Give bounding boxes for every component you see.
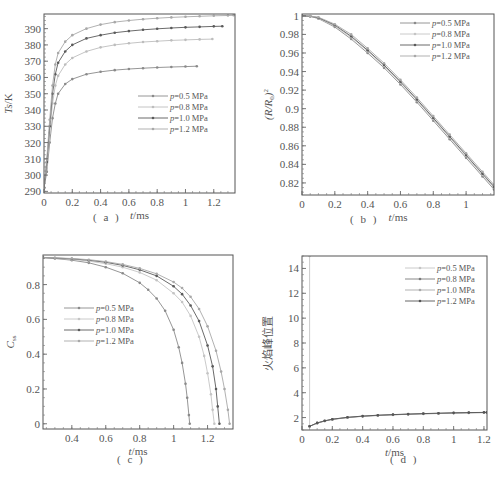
y-tick-label: 6 xyxy=(294,362,300,374)
data-marker xyxy=(113,44,116,47)
panel-label: ( c ) xyxy=(117,453,145,466)
data-marker xyxy=(215,349,218,352)
y-tick-label: 1 xyxy=(294,10,300,22)
data-marker xyxy=(407,413,410,416)
y-tick-label: 8 xyxy=(294,337,300,349)
data-marker xyxy=(184,382,187,385)
x-tick-label: 0.2 xyxy=(325,433,339,445)
data-marker xyxy=(331,418,334,421)
x-tick-label: 1.2 xyxy=(477,433,491,445)
data-marker xyxy=(483,411,486,414)
legend-marker xyxy=(419,278,422,281)
data-marker xyxy=(113,21,116,24)
data-marker xyxy=(104,266,107,269)
legend-entry: p=0.8 MPa xyxy=(95,314,134,324)
data-marker xyxy=(155,279,158,282)
y-tick-label: 4 xyxy=(294,387,300,399)
panel-label: ( d ) xyxy=(390,453,418,466)
data-marker xyxy=(392,413,395,416)
data-marker xyxy=(155,297,158,300)
x-axis-label: t/ms xyxy=(130,209,149,221)
x-tick-label: 0 xyxy=(299,198,305,210)
legend-marker xyxy=(78,329,81,332)
data-marker xyxy=(213,422,216,425)
data-marker xyxy=(170,16,173,19)
x-tick-label: 1 xyxy=(171,432,177,444)
y-tick-label: 0.2 xyxy=(26,383,40,395)
legend-entry: p=0.5 MPa xyxy=(436,263,475,273)
data-marker xyxy=(64,63,67,66)
data-marker xyxy=(211,38,214,41)
data-marker xyxy=(227,409,230,412)
panel-label: ( b ) xyxy=(350,213,378,226)
data-marker xyxy=(309,15,312,18)
legend-marker xyxy=(419,289,422,292)
data-marker xyxy=(142,41,145,44)
data-marker xyxy=(121,272,124,275)
y-tick-label: 390 xyxy=(25,23,42,35)
y-axis-label: Css xyxy=(4,335,18,348)
legend: p=0.5 MPap=0.8 MPap=1.0 MPap=1.2 MPa xyxy=(138,91,208,134)
legend-entry: p=1.0 MPa xyxy=(431,40,470,50)
data-marker xyxy=(223,388,226,391)
legend-marker xyxy=(78,318,81,321)
data-marker xyxy=(181,287,184,290)
legend-entry: p=1.0 MPa xyxy=(436,285,475,295)
legend-entry: p=0.5 MPa xyxy=(95,303,134,313)
data-marker xyxy=(416,96,419,99)
data-marker xyxy=(218,422,221,425)
data-marker xyxy=(170,66,173,69)
data-marker xyxy=(71,44,74,47)
legend-entry: p=1.2 MPa xyxy=(431,51,470,61)
x-tick-label: 0.8 xyxy=(426,198,440,210)
y-tick-label: 12 xyxy=(288,287,299,299)
data-marker xyxy=(184,39,187,42)
legend-marker xyxy=(78,340,81,343)
legend-entry: p=1.2 MPa xyxy=(95,336,134,346)
data-marker xyxy=(334,23,337,26)
y-tick-label: 10 xyxy=(288,312,300,324)
data-marker xyxy=(189,304,192,307)
x-tick-label: 0.6 xyxy=(99,432,113,444)
data-marker xyxy=(184,26,187,29)
data-marker xyxy=(172,281,175,284)
data-marker xyxy=(128,42,131,45)
y-tick-label: 380 xyxy=(25,39,42,51)
y-tick-label: 0.86 xyxy=(280,140,300,152)
data-marker xyxy=(164,309,167,312)
data-marker xyxy=(317,16,320,19)
legend-entry: p=0.8 MPa xyxy=(431,29,470,39)
data-marker xyxy=(228,422,231,425)
data-marker xyxy=(198,15,201,18)
y-tick-label: 0.9 xyxy=(285,103,299,115)
data-marker xyxy=(170,39,173,42)
legend-entry: p=1.0 MPa xyxy=(169,113,208,123)
y-tick-label: 350 xyxy=(25,88,42,100)
data-marker xyxy=(156,40,159,43)
data-marker xyxy=(221,25,224,28)
data-marker xyxy=(189,295,192,298)
legend-marker xyxy=(78,307,81,310)
x-tick-label: 0 xyxy=(299,433,305,445)
data-marker xyxy=(181,301,184,304)
data-marker xyxy=(211,409,214,412)
data-marker xyxy=(198,38,201,41)
y-tick-label: 370 xyxy=(25,55,42,67)
data-marker xyxy=(142,18,145,21)
data-marker xyxy=(71,57,74,60)
data-marker xyxy=(172,329,175,332)
x-tick-label: 0.4 xyxy=(361,198,375,210)
data-marker xyxy=(142,28,145,31)
data-marker xyxy=(308,425,311,428)
y-tick-label: 290 xyxy=(25,185,42,197)
data-marker xyxy=(104,260,107,263)
data-marker xyxy=(181,293,184,296)
legend-marker xyxy=(419,267,422,270)
data-marker xyxy=(437,412,440,415)
data-marker xyxy=(54,84,57,87)
x-tick-label: 0.8 xyxy=(133,432,147,444)
x-tick-label: 0.6 xyxy=(122,196,136,208)
data-marker xyxy=(206,325,209,328)
data-marker xyxy=(350,33,353,36)
data-marker xyxy=(155,272,158,275)
